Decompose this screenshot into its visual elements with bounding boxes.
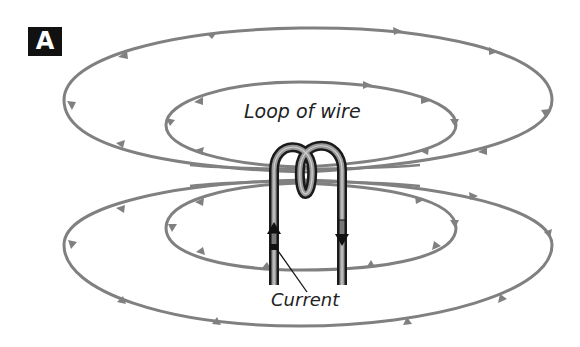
current-label: Current — [271, 289, 339, 310]
loop-of-wire-label: Loop of wire — [244, 100, 361, 122]
panel-label-badge: A — [28, 27, 62, 56]
